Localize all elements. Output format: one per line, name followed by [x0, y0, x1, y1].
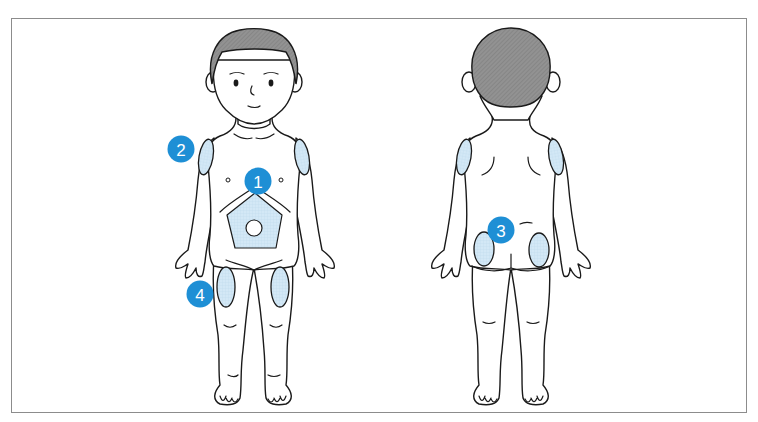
site-3-patch-right-buttock	[529, 233, 549, 267]
badge-number: 4	[195, 286, 204, 305]
badge-number: 3	[496, 222, 505, 241]
site-4-patch-right-thigh	[271, 267, 289, 307]
front-eye-right	[269, 80, 274, 87]
front-nipple-left	[226, 178, 230, 182]
back-figure	[432, 28, 591, 405]
badge-number: 1	[253, 173, 262, 192]
front-navel	[246, 220, 262, 236]
injection-sites-diagram: 1 2 3 4	[0, 0, 758, 422]
front-figure	[176, 29, 335, 405]
back-legs	[472, 258, 550, 405]
badge-number: 2	[176, 141, 185, 160]
site-badge-4: 4	[187, 281, 214, 308]
site-badge-2: 2	[168, 136, 195, 163]
site-4-patch-left-thigh	[217, 267, 235, 307]
site-badge-3: 3	[488, 217, 515, 244]
front-nipple-right	[279, 178, 283, 182]
site-badge-1: 1	[245, 168, 272, 195]
front-eye-left	[234, 80, 239, 87]
front-face	[213, 60, 294, 124]
back-hair	[472, 28, 550, 107]
